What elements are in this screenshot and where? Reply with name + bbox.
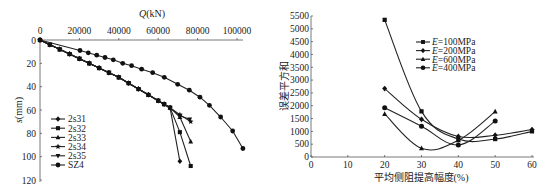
data-point-circle-icon — [139, 67, 144, 72]
right-y-axis-title: 误差平方和 — [278, 61, 290, 111]
data-point-circle-icon — [207, 103, 212, 108]
data-point-circle-icon — [162, 75, 167, 80]
legend-star-icon — [55, 144, 61, 149]
legend-circle-icon — [56, 163, 61, 168]
x-tick-label: 80000 — [186, 26, 210, 36]
data-point-diamond-icon — [419, 116, 424, 122]
data-point-diamond-icon — [177, 159, 182, 165]
error-sum-chart: 0102030405060050010001500200025003000350… — [278, 11, 537, 184]
data-point-circle-icon — [38, 38, 43, 43]
data-point-circle-icon — [103, 55, 108, 60]
data-point-circle-icon — [120, 61, 125, 66]
y-tick-label: 4000 — [290, 50, 309, 60]
data-point-circle-icon — [150, 70, 155, 75]
legend-circle-icon — [421, 66, 426, 71]
y-tick-label: 5000 — [290, 24, 309, 34]
data-point-circle-icon — [218, 115, 223, 120]
load-settlement-chart: 0200004000060000800001000000204060801001… — [13, 8, 252, 186]
data-point-circle-icon — [111, 57, 116, 62]
data-point-circle-icon — [175, 82, 180, 87]
y-tick-label: 2000 — [290, 101, 309, 111]
x-tick-label: 40 — [454, 160, 464, 170]
y-tick-label: 1500 — [290, 114, 309, 124]
legend-square-icon — [56, 126, 60, 130]
data-point-square-icon — [383, 18, 387, 22]
y-tick-label: 120 — [22, 176, 37, 186]
y-tick-label: 60 — [27, 106, 37, 116]
series-line — [40, 40, 190, 119]
y-tick-label: 0 — [304, 152, 309, 162]
data-point-circle-icon — [419, 124, 424, 129]
data-point-triangle-icon — [188, 139, 193, 144]
legend-label: E=400MPa — [431, 63, 476, 73]
x-tick-label: 30 — [417, 160, 427, 170]
y-tick-label: 2500 — [290, 88, 309, 98]
y-tick-label: 40 — [27, 82, 37, 92]
y-tick-label: 4500 — [290, 37, 309, 47]
legend-diamond-icon — [421, 48, 426, 53]
x-tick-label: 50 — [490, 160, 500, 170]
data-point-triangle-icon — [382, 111, 387, 116]
x-tick-label: 60 — [527, 160, 537, 170]
figure: 0200004000060000800001000000204060801001… — [0, 0, 553, 196]
x-tick-label: 20000 — [68, 26, 92, 36]
x-tick-label: 100000 — [223, 26, 252, 36]
y-tick-label: 0 — [31, 36, 36, 46]
series-line — [40, 40, 191, 142]
x-tick-label: 20 — [380, 160, 390, 170]
right-axes: 0102030405060050010001500200025003000350… — [290, 11, 537, 170]
y-tick-label: 100 — [22, 152, 37, 162]
data-point-circle-icon — [86, 50, 91, 55]
series-e-100mpa — [383, 18, 535, 142]
series-2s32 — [38, 38, 193, 168]
data-point-triangle-icon — [493, 109, 498, 114]
data-point-square-icon — [419, 109, 423, 113]
legend-diamond-icon — [56, 116, 61, 122]
data-point-circle-icon — [129, 63, 134, 68]
legend-item-sz4: SZ4 — [51, 160, 84, 170]
data-point-circle-icon — [230, 129, 235, 134]
legend-label: SZ4 — [68, 160, 84, 170]
y-tick-label: 20 — [27, 59, 37, 69]
x-tick-label: 10 — [343, 160, 353, 170]
x-tick-label: 40000 — [107, 26, 131, 36]
series-2s31 — [38, 37, 183, 164]
y-tick-label: 1000 — [290, 127, 309, 137]
data-point-square-icon — [178, 130, 182, 134]
legend-item-3: E=400MPa — [416, 63, 476, 73]
x-tick-label: 0 — [309, 160, 314, 170]
y-tick-label: 3500 — [290, 63, 309, 73]
data-point-circle-icon — [493, 119, 498, 124]
data-point-circle-icon — [94, 53, 99, 58]
series-e-200mpa — [382, 86, 534, 140]
data-point-circle-icon — [187, 88, 192, 93]
data-point-circle-icon — [456, 142, 461, 147]
x-tick-label: 60000 — [146, 26, 170, 36]
data-point-circle-icon — [241, 146, 246, 151]
y-tick-label: 500 — [295, 139, 310, 149]
legend-square-icon — [421, 40, 425, 44]
series-2s33 — [38, 37, 194, 143]
x-tick-label: 0 — [38, 26, 43, 36]
data-point-square-icon — [189, 164, 193, 168]
left-axes: 0200004000060000800001000000204060801001… — [22, 26, 252, 186]
data-point-circle-icon — [198, 95, 203, 100]
series-curve — [385, 89, 532, 138]
figure-canvas: 0200004000060000800001000000204060801001… — [0, 0, 553, 196]
right-x-axis-title: 平均侧阻提高幅度(%) — [374, 171, 469, 184]
left-y-axis-title: s(mm) — [13, 97, 25, 123]
data-point-circle-icon — [78, 48, 83, 53]
y-tick-label: 3000 — [290, 75, 309, 85]
right-legend: E=100MPaE=200MPaE=600MPaE=400MPa — [416, 37, 476, 73]
y-tick-label: 5500 — [290, 11, 309, 21]
data-point-circle-icon — [382, 105, 387, 110]
left-x-axis-title: Q(kN) — [139, 8, 165, 20]
left-legend: 2s312s322s332s342s35SZ4 — [51, 114, 86, 170]
y-tick-label: 80 — [27, 129, 37, 139]
